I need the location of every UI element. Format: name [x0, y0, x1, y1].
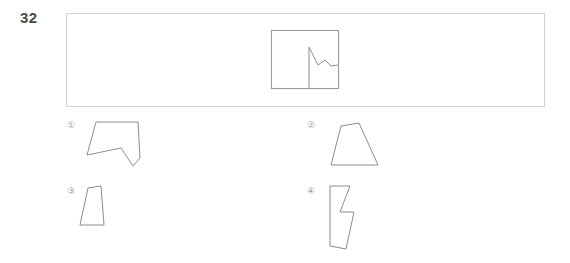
answer-option-3[interactable]: ③ — [60, 178, 220, 248]
option-3-shape — [60, 178, 220, 258]
answer-option-1[interactable]: ① — [60, 112, 220, 182]
slanted-quadrilateral-icon — [80, 186, 104, 225]
trapezoid-icon — [331, 123, 378, 165]
question-page: 32 ① ② ③ ④ — [0, 0, 570, 263]
option-4-shape — [300, 178, 460, 258]
stimulus-frame — [66, 13, 545, 107]
notched-pentagon-icon — [87, 122, 140, 166]
question-number: 32 — [20, 10, 38, 25]
lightning-bolt-polygon-icon — [330, 186, 354, 249]
answer-option-4[interactable]: ④ — [300, 178, 460, 248]
answer-option-2[interactable]: ② — [300, 112, 460, 182]
